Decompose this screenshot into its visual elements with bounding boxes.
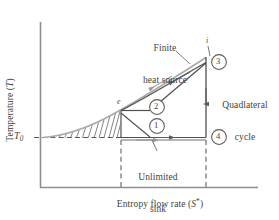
node-label-2: 2 <box>154 102 158 112</box>
y-tick-label-t0: T0 <box>14 130 23 143</box>
x-axis-label-close: ) <box>200 199 203 209</box>
leader-point-i <box>208 46 210 56</box>
unlimited-sink-line-1: Unlimited <box>123 172 193 183</box>
node-label-3: 3 <box>216 57 220 67</box>
t0-subscript: 0 <box>20 135 24 143</box>
edge-inner-diagonal <box>121 113 150 137</box>
thermodynamic-diagram-figure: Temperature (T) Entropy flow rate (S*) T… <box>0 0 279 220</box>
quadlateral-cycle-line-2: cycle <box>212 132 278 143</box>
node-label-4: 4 <box>216 132 220 142</box>
y-axis-label-symbol: T <box>5 82 15 87</box>
annotation-finite-heat-source: Finite heat source <box>125 22 205 107</box>
finite-heat-source-line-2: heat source <box>125 75 205 86</box>
annotation-quadlateral-cycle: Quadlateral cycle <box>212 79 278 164</box>
leader-unlimited-sink <box>152 140 157 151</box>
annotation-unlimited-sink: Unlimited sink <box>123 151 193 220</box>
unlimited-sink-line-2: sink <box>123 204 193 215</box>
quadlateral-cycle-line-1: Quadlateral <box>212 100 278 111</box>
finite-heat-source-line-1: Finite <box>125 43 205 54</box>
label-point-i: i <box>206 37 208 46</box>
label-point-e: e <box>117 98 121 107</box>
node-label-1: 1 <box>154 121 158 131</box>
y-axis-label-close: ) <box>5 78 15 81</box>
y-axis-label-wrapper: Temperature (T) <box>3 55 17 165</box>
